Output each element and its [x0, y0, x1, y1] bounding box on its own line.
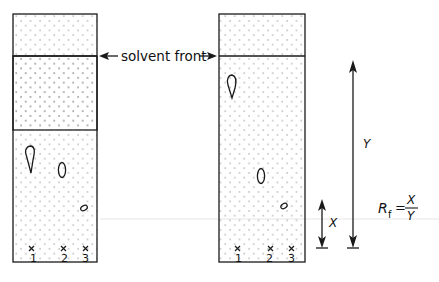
solvent-front-annotation: solvent front	[99, 48, 217, 64]
y-distance-arrow	[347, 60, 359, 248]
lane-label-3-right: 3	[288, 252, 295, 265]
formula-equals: =	[395, 200, 406, 215]
x-label: X	[328, 216, 338, 230]
lane-label-1-right: 1	[235, 252, 242, 265]
lane-label-2-left: 2	[61, 252, 68, 265]
formula-r: R	[378, 200, 388, 216]
formula-denominator: Y	[407, 209, 416, 223]
lane-label-2-right: 2	[266, 252, 273, 265]
formula-numerator: X	[406, 193, 416, 207]
y-label: Y	[363, 137, 372, 151]
formula-subscript-f: f	[388, 209, 392, 220]
chromatography-diagram: 1 2 3 1 2 3 solvent front Y X R	[0, 0, 439, 282]
lane-label-1-left: 1	[30, 252, 37, 265]
solvent-front-label: solvent front	[121, 48, 207, 64]
x-distance-arrow	[316, 199, 328, 248]
lane-label-3-left: 3	[82, 252, 89, 265]
